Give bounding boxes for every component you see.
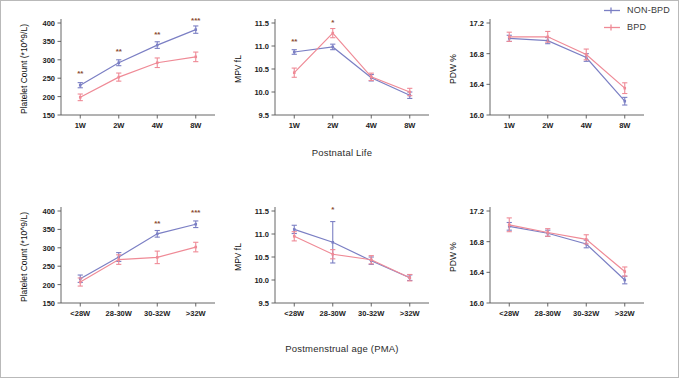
series-non-bpd: [292, 222, 413, 281]
significance-marker: *: [331, 18, 335, 27]
chart-pdw-postnatal: 16.016.416.817.21W2W4W8WPDW %: [444, 9, 652, 141]
y-tick-label: 9.5: [259, 299, 269, 308]
plot-pdw-postnatal: 16.016.416.817.21W2W4W8WPDW %: [444, 9, 652, 141]
x-tick-label: <28W: [284, 309, 305, 318]
plot-platelet-postnatal: 1502002503003504001W2W4W8WPlatelet Count…: [15, 9, 223, 141]
x-axis-title-pma: Postmenstrual age (PMA): [232, 343, 452, 354]
x-tick-label: >32W: [615, 309, 636, 318]
series-bpd: [292, 232, 413, 281]
y-tick-label: 11.5: [255, 19, 269, 28]
y-tick-label: 9.5: [259, 111, 269, 120]
y-axis-title: PDW %: [448, 242, 458, 272]
x-tick-label: <28W: [499, 309, 520, 318]
plot-mpv-postnatal: 9.510.010.511.011.51W2W4W8WMPV fL***: [229, 9, 437, 141]
y-tick-label: 150: [42, 299, 55, 308]
y-tick-label: 200: [42, 93, 55, 102]
x-tick-label: 30-32W: [358, 309, 385, 318]
y-tick-label: 16.0: [469, 111, 484, 120]
y-tick-label: 16.4: [469, 268, 484, 277]
y-axis-title: Platelet Count (*10^9/L): [19, 212, 29, 302]
y-tick-label: 150: [42, 111, 55, 120]
y-tick-label: 11.0: [255, 42, 269, 51]
x-tick-label: >32W: [186, 309, 207, 318]
series-non-bpd: [292, 44, 413, 98]
x-tick-label: 1W: [75, 121, 87, 130]
significance-marker: **: [154, 30, 161, 39]
y-tick-label: 10.0: [254, 88, 269, 97]
series-non-bpd: [507, 223, 628, 284]
plot-pdw-pma: 16.016.416.817.2<28W28-30W30-32W>32WPDW …: [444, 197, 652, 329]
x-tick-label: 30-32W: [573, 309, 600, 318]
x-tick-label: 4W: [152, 121, 164, 130]
x-tick-label: 2W: [113, 121, 125, 130]
x-tick-label: 28-30W: [106, 309, 133, 318]
y-tick-label: 400: [42, 207, 55, 216]
chart-mpv-postnatal: 9.510.010.511.011.51W2W4W8WMPV fL***: [229, 9, 437, 141]
x-tick-label: 4W: [366, 121, 378, 130]
significance-marker: *: [331, 205, 335, 214]
x-tick-label: >32W: [400, 309, 421, 318]
y-tick-label: 200: [42, 281, 55, 290]
plot-mpv-pma: 9.510.010.511.011.5<28W28-30W30-32W>32WM…: [229, 197, 437, 329]
y-tick-label: 11.0: [255, 230, 269, 239]
y-tick-label: 10.0: [254, 276, 269, 285]
x-tick-label: 8W: [190, 121, 202, 130]
x-tick-label: 28-30W: [535, 309, 562, 318]
x-tick-label: 8W: [619, 121, 631, 130]
chart-mpv-pma: 9.510.010.511.011.5<28W28-30W30-32W>32WM…: [229, 197, 437, 329]
chart-platelet-postnatal: 1502002503003504001W2W4W8WPlatelet Count…: [15, 9, 223, 141]
figure-container: NON-BPD BPD 1502002503003504001W2W4W8WPl…: [0, 0, 679, 378]
y-axis-title: Platelet Count (*10^9/L): [19, 24, 29, 114]
x-tick-label: 28-30W: [320, 309, 347, 318]
significance-marker: **: [291, 37, 298, 46]
y-tick-label: 300: [42, 56, 55, 65]
significance-marker: ***: [191, 16, 201, 25]
series-bpd: [78, 242, 199, 286]
series-bpd: [507, 218, 628, 276]
significance-marker: **: [154, 219, 161, 228]
y-tick-label: 16.0: [469, 299, 484, 308]
y-tick-label: 10.5: [254, 253, 269, 262]
x-tick-label: 2W: [327, 121, 339, 130]
x-tick-label: 4W: [581, 121, 593, 130]
y-axis-title: PDW %: [448, 54, 458, 84]
x-tick-label: 8W: [404, 121, 416, 130]
series-non-bpd: [78, 26, 199, 88]
y-tick-label: 250: [42, 262, 55, 271]
y-tick-label: 300: [42, 244, 55, 253]
y-tick-label: 17.2: [469, 207, 484, 216]
chart-pdw-pma: 16.016.416.817.2<28W28-30W30-32W>32WPDW …: [444, 197, 652, 329]
y-tick-label: 16.8: [469, 50, 484, 59]
x-tick-label: 30-32W: [144, 309, 171, 318]
x-tick-label: 2W: [542, 121, 554, 130]
y-axis-title: MPV fL: [233, 55, 243, 83]
y-tick-label: 350: [42, 225, 55, 234]
x-tick-label: 1W: [289, 121, 301, 130]
y-tick-label: 16.4: [469, 80, 484, 89]
significance-marker: **: [77, 69, 84, 78]
y-tick-label: 250: [42, 74, 55, 83]
x-tick-label: 1W: [504, 121, 516, 130]
significance-marker: ***: [191, 208, 201, 217]
y-tick-label: 400: [42, 19, 55, 28]
y-tick-label: 11.5: [255, 207, 269, 216]
significance-marker: **: [116, 47, 123, 56]
plot-platelet-pma: 150200250300350400<28W28-30W30-32W>32WPl…: [15, 197, 223, 329]
y-axis-title: MPV fL: [233, 243, 243, 271]
chart-platelet-pma: 150200250300350400<28W28-30W30-32W>32WPl…: [15, 197, 223, 329]
x-axis-title-postnatal: Postnatal Life: [232, 147, 452, 158]
x-tick-label: <28W: [70, 309, 91, 318]
y-tick-label: 17.2: [469, 19, 484, 28]
y-tick-label: 10.5: [254, 65, 269, 74]
y-tick-label: 350: [42, 37, 55, 46]
y-tick-label: 16.8: [469, 238, 484, 247]
